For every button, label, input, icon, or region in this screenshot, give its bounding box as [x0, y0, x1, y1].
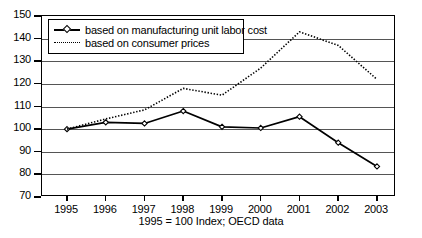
chart-caption: 1995 = 100 Index; OECD data	[0, 215, 422, 228]
legend-item-consumer-prices: based on consumer prices	[54, 36, 238, 49]
y-tick-mark	[34, 173, 41, 175]
y-tick-label: 140	[13, 32, 31, 43]
series-marker	[181, 108, 186, 113]
x-tick-label: 1999	[209, 203, 233, 215]
y-tick-mark	[34, 151, 41, 153]
chart-legend: based on manufacturing unit labor cost b…	[48, 19, 244, 54]
y-tick-label: 130	[13, 54, 31, 65]
x-tick-mark	[260, 196, 262, 201]
y-tick-mark	[34, 83, 41, 85]
x-tick-label: 2003	[364, 203, 388, 215]
x-tick-label: 1998	[170, 203, 194, 215]
y-tick-label: 120	[13, 77, 31, 88]
legend-item-manufacturing-unit-labor-cost: based on manufacturing unit labor cost	[54, 23, 238, 36]
y-tick-label: 110	[14, 100, 31, 111]
legend-label: based on manufacturing unit labor cost	[85, 24, 267, 36]
x-tick-mark	[376, 196, 378, 201]
series-marker	[142, 121, 147, 126]
x-tick-mark	[337, 196, 339, 201]
x-tick-label: 1996	[93, 203, 117, 215]
legend-label: based on consumer prices	[85, 37, 209, 49]
x-tick-label: 2000	[248, 203, 272, 215]
x-tick-mark	[105, 196, 107, 201]
chart-figure: 708090100110120130140150 199519961997199…	[0, 0, 422, 238]
x-tick-mark	[66, 196, 68, 201]
x-tick-mark	[182, 196, 184, 201]
series-marker	[258, 125, 263, 130]
y-axis: 708090100110120130140150	[0, 0, 41, 211]
legend-swatch-dotted-line-icon	[54, 37, 80, 48]
y-tick-mark	[34, 106, 41, 108]
y-tick-mark	[34, 38, 41, 40]
x-tick-label: 1995	[54, 203, 78, 215]
series-marker	[219, 124, 224, 129]
x-tick-label: 2001	[287, 203, 311, 215]
x-tick-mark	[299, 196, 301, 201]
series-marker	[103, 120, 108, 125]
x-tick-label: 2002	[325, 203, 349, 215]
legend-swatch-solid-line-icon	[54, 24, 80, 35]
y-tick-mark	[34, 128, 41, 130]
y-tick-label: 80	[19, 167, 31, 178]
y-tick-mark	[34, 60, 41, 62]
x-tick-mark	[221, 196, 223, 201]
y-tick-label: 100	[13, 122, 31, 133]
y-tick-label: 150	[13, 9, 31, 20]
x-tick-label: 1997	[132, 203, 156, 215]
series-line-0	[67, 111, 377, 166]
x-tick-mark	[144, 196, 146, 201]
y-tick-label: 90	[19, 145, 31, 156]
y-tick-mark	[34, 15, 41, 17]
